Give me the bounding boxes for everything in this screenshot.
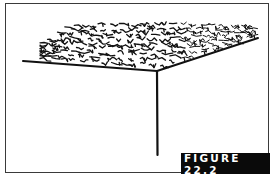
vertical-corner-line [157, 71, 158, 155]
right-edge-line [157, 38, 258, 71]
left-edge-line [23, 61, 157, 71]
figure-label: FIGURE 22.2 [181, 153, 270, 174]
grass-texture [40, 22, 258, 68]
